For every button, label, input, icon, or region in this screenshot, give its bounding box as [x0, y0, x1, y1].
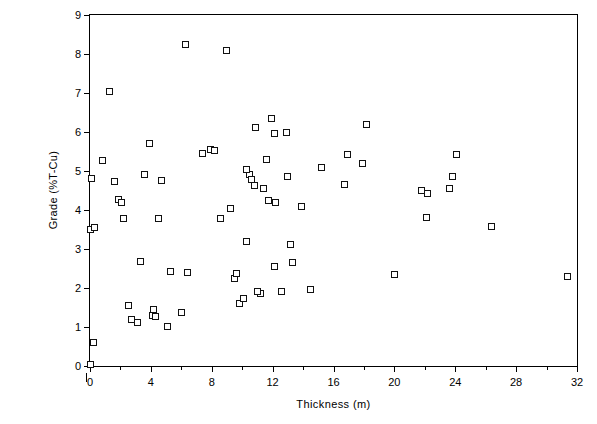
y-axis-tick — [84, 93, 90, 94]
y-axis-tick-label: 4 — [75, 205, 81, 216]
data-point-marker — [318, 164, 325, 171]
data-point-marker — [268, 115, 275, 122]
data-point-marker — [289, 259, 296, 266]
data-point-marker — [227, 205, 234, 212]
x-axis-minor-tick — [181, 366, 182, 370]
x-axis-tick — [212, 366, 213, 372]
y-axis-tick — [84, 210, 90, 211]
data-point-marker — [125, 302, 132, 309]
data-point-marker — [391, 271, 398, 278]
x-axis-minor-tick — [547, 366, 548, 370]
y-axis-tick-label: 8 — [75, 49, 81, 60]
data-point-marker — [449, 173, 456, 180]
data-point-marker — [271, 130, 278, 137]
data-point-marker — [90, 339, 97, 346]
y-axis-tick-label: 2 — [75, 283, 81, 294]
y-axis-tick-label: 5 — [75, 166, 81, 177]
data-point-marker — [184, 269, 191, 276]
data-point-marker — [283, 129, 290, 136]
data-point-marker — [243, 166, 250, 173]
y-axis-tick — [84, 15, 90, 16]
data-point-marker — [223, 47, 230, 54]
plot-canvas: 0123456789048121620242832 — [90, 15, 577, 366]
data-point-marker — [152, 313, 159, 320]
x-axis-title: Thickness (m) — [89, 398, 578, 410]
data-point-marker — [164, 323, 171, 330]
plot-frame: 0123456789048121620242832 — [89, 14, 578, 367]
y-axis-title: Grade (%T-Cu) — [47, 151, 59, 229]
data-point-marker — [341, 181, 348, 188]
data-point-marker — [363, 121, 370, 128]
data-point-marker — [564, 273, 571, 280]
x-axis-minor-tick — [120, 366, 121, 370]
data-point-marker — [146, 140, 153, 147]
x-axis-tick-label: 20 — [388, 377, 400, 388]
data-point-marker — [120, 215, 127, 222]
y-axis-tick-label: 1 — [75, 322, 81, 333]
data-point-marker — [91, 224, 98, 231]
data-point-marker — [199, 150, 206, 157]
data-point-marker — [240, 295, 247, 302]
data-point-marker — [251, 182, 258, 189]
x-axis-minor-tick — [242, 366, 243, 370]
x-axis-tick — [273, 366, 274, 372]
data-point-marker — [424, 190, 431, 197]
x-axis-tick-label: 24 — [449, 377, 461, 388]
data-point-marker — [182, 41, 189, 48]
data-point-marker — [150, 306, 157, 313]
data-point-marker — [344, 151, 351, 158]
data-point-marker — [243, 238, 250, 245]
x-axis-minor-tick — [303, 366, 304, 370]
y-axis-tick-label: 3 — [75, 244, 81, 255]
x-axis-tick-label: 4 — [148, 377, 154, 388]
x-axis-minor-tick — [425, 366, 426, 370]
y-axis-tick-label: 9 — [75, 10, 81, 21]
data-point-marker — [287, 241, 294, 248]
data-point-marker — [118, 199, 125, 206]
x-axis-tick-label: 16 — [327, 377, 339, 388]
data-point-marker — [260, 185, 267, 192]
data-point-marker — [233, 270, 240, 277]
data-point-marker — [106, 88, 113, 95]
data-point-marker — [359, 160, 366, 167]
data-point-marker — [307, 286, 314, 293]
x-axis-tick — [516, 366, 517, 372]
origin-axis-break-tick — [86, 373, 87, 382]
data-point-marker — [111, 178, 118, 185]
data-point-marker — [99, 157, 106, 164]
data-point-marker — [271, 263, 278, 270]
data-point-marker — [158, 177, 165, 184]
data-point-marker — [284, 173, 291, 180]
data-point-marker — [423, 214, 430, 221]
data-point-marker — [252, 124, 259, 131]
y-axis-tick — [84, 249, 90, 250]
x-axis-minor-tick — [486, 366, 487, 370]
data-point-marker — [155, 215, 162, 222]
y-axis-tick — [84, 132, 90, 133]
y-axis-tick-label: 6 — [75, 127, 81, 138]
data-point-marker — [87, 361, 94, 368]
y-axis-tick — [84, 288, 90, 289]
x-axis-tick-label: 0 — [87, 377, 93, 388]
data-point-marker — [453, 151, 460, 158]
y-axis-tick-label: 0 — [75, 361, 81, 372]
y-axis-tick — [84, 327, 90, 328]
data-point-marker — [134, 319, 141, 326]
data-point-marker — [167, 268, 174, 275]
data-point-marker — [178, 309, 185, 316]
x-axis-tick-label: 28 — [510, 377, 522, 388]
data-point-marker — [265, 197, 272, 204]
data-point-marker — [217, 215, 224, 222]
y-axis-tick-label: 7 — [75, 88, 81, 99]
x-axis-tick — [394, 366, 395, 372]
x-axis-minor-tick — [364, 366, 365, 370]
x-axis-tick-label: 32 — [571, 377, 583, 388]
x-axis-tick — [334, 366, 335, 372]
data-point-marker — [446, 185, 453, 192]
data-point-marker — [298, 203, 305, 210]
data-point-marker — [488, 223, 495, 230]
data-point-marker — [211, 147, 218, 154]
x-axis-tick-label: 8 — [209, 377, 215, 388]
data-point-marker — [272, 199, 279, 206]
x-axis-tick — [151, 366, 152, 372]
